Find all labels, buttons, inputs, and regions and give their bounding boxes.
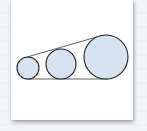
- large-circle: [84, 35, 128, 79]
- small-circle: [17, 57, 39, 79]
- medium-circle: [46, 49, 76, 79]
- tangent-circles-figure: [0, 0, 147, 131]
